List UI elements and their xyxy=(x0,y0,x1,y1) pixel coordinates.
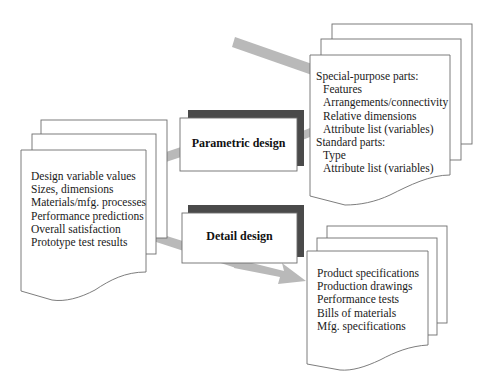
outputs-document-text: Product specifications Production drawin… xyxy=(317,267,419,333)
inputs-line: Overall satisfaction xyxy=(31,223,146,236)
outputs-line: Bills of materials xyxy=(317,307,419,320)
special-parts-heading: Special-purpose parts: xyxy=(316,70,448,83)
special-parts-item: Attribute list (variables) xyxy=(316,123,448,136)
standard-parts-item: Attribute list (variables) xyxy=(316,162,448,175)
connector-inputs-to-parametric xyxy=(166,147,181,162)
standard-parts-item: Type xyxy=(316,149,448,162)
standard-parts-heading: Standard parts: xyxy=(316,136,448,149)
detail-design-label: Detail design xyxy=(182,229,297,244)
special-parts-item: Arrangements/connectivity xyxy=(316,96,448,109)
inputs-document-text: Design variable values Sizes, dimensions… xyxy=(31,170,146,249)
inputs-line: Materials/mfg. processes xyxy=(31,196,146,209)
inputs-line: Performance predictions xyxy=(31,210,146,223)
parts-document-text: Special-purpose parts: Features Arrangem… xyxy=(316,70,448,176)
outputs-line: Production drawings xyxy=(317,280,419,293)
inputs-line: Design variable values xyxy=(31,170,146,183)
special-parts-item: Relative dimensions xyxy=(316,110,448,123)
outputs-line: Product specifications xyxy=(317,267,419,280)
special-parts-item: Features xyxy=(316,83,448,96)
inputs-line: Sizes, dimensions xyxy=(31,183,146,196)
inputs-line: Prototype test results xyxy=(31,236,146,249)
outputs-line: Performance tests xyxy=(317,293,419,306)
connector-top-to-parts xyxy=(232,37,315,75)
outputs-line: Mfg. specifications xyxy=(317,320,419,333)
parametric-design-label: Parametric design xyxy=(180,136,297,151)
